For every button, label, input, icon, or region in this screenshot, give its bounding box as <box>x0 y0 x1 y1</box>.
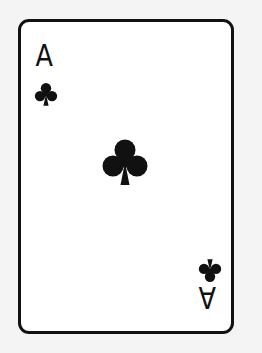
playing-card: A A <box>18 19 234 334</box>
club-icon <box>33 81 59 107</box>
club-icon-center <box>100 135 150 187</box>
rank-top-left: A <box>36 41 53 71</box>
rank-bottom-right: A <box>199 282 216 312</box>
